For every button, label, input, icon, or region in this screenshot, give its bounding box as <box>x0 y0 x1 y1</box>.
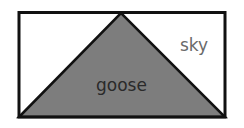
sky-label: sky <box>180 35 208 55</box>
goose-label: goose <box>96 75 147 95</box>
goose-sky-diagram: sky goose <box>0 0 244 128</box>
